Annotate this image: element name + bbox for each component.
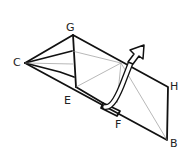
outline (25, 35, 168, 140)
fold-up-arrow-icon (105, 45, 144, 107)
label-b: B (170, 137, 178, 150)
label-e: E (64, 94, 71, 107)
crease-lines (25, 51, 167, 140)
label-c: C (13, 56, 21, 69)
label-h: H (170, 80, 178, 93)
label-g: G (66, 21, 75, 34)
origami-diagram: C G E F H B (0, 0, 188, 153)
label-f: F (115, 118, 121, 131)
